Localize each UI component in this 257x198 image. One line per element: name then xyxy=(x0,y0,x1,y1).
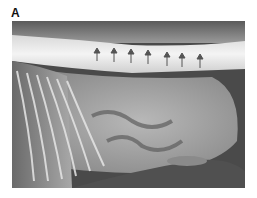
panel-label: A xyxy=(11,6,20,20)
radiograph-image xyxy=(12,21,245,188)
